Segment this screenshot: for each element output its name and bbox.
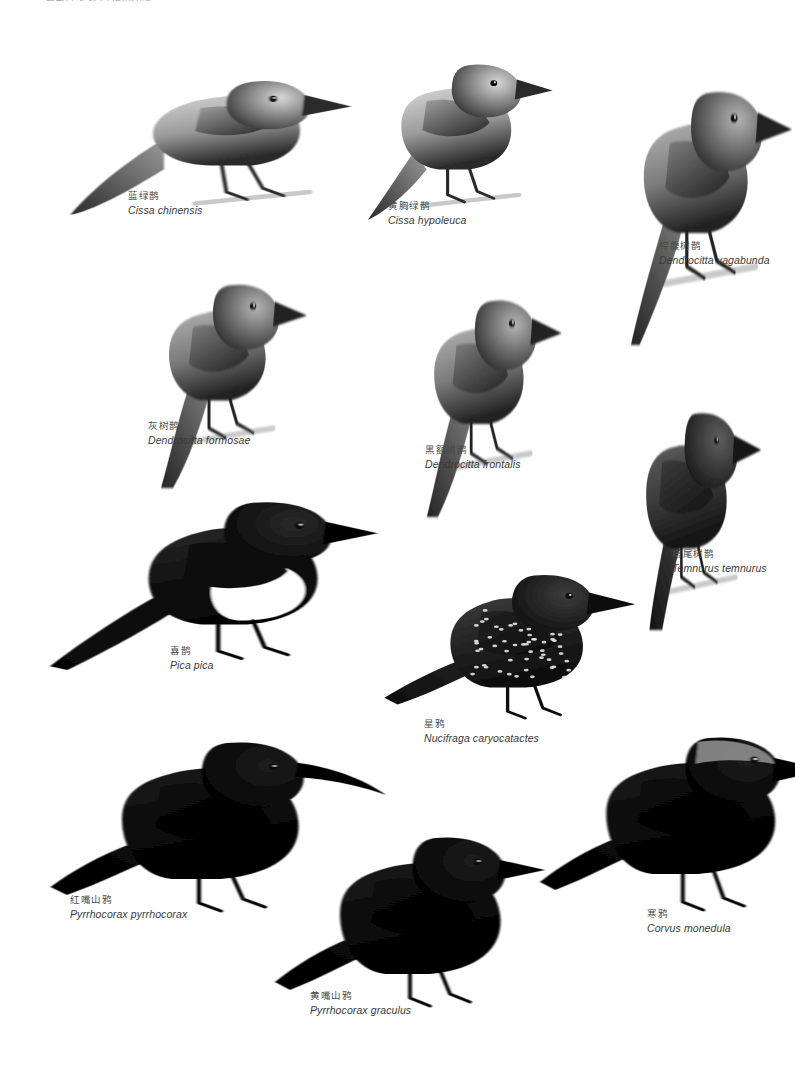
species-caption-dendrocitta-formosae: 灰树鹊Dendrocitta formosae (148, 420, 250, 447)
species-block-pica-pica (50, 480, 340, 670)
species-name-cn: 灰树鹊 (148, 420, 250, 433)
bird-illustration-icon (540, 710, 795, 910)
species-name-cn: 黄胸绿鹊 (388, 200, 467, 213)
species-name-cn: 塔尾树鹊 (672, 548, 767, 561)
bird-identification-plate: 雀形目 鸦科 CORVIDAE (0, 0, 795, 1065)
species-name-scientific: Dendrocitta frontalis (425, 458, 520, 472)
species-caption-cissa-hypoleuca: 黄胸绿鹊Cissa hypoleuca (388, 200, 467, 227)
bird-illustration-icon (105, 258, 305, 488)
bird-illustration-icon (270, 810, 520, 1010)
species-name-cn: 红嘴山鸦 (70, 894, 187, 907)
species-name-scientific: Pyrrhocorax graculus (310, 1004, 411, 1018)
species-block-nucifraga-caryocatactes (380, 555, 600, 725)
species-illustration-pica-pica (50, 480, 340, 670)
bird-illustration-icon (575, 65, 790, 345)
species-block-pyrrhocorax-graculus (270, 810, 520, 1010)
species-illustration-temnurus-temnurus (595, 390, 755, 630)
species-name-cn: 棕腹树鹊 (659, 240, 770, 253)
species-illustration-dendrocitta-frontalis (375, 272, 560, 517)
species-block-dendrocitta-formosae (105, 258, 305, 488)
species-caption-dendrocitta-frontalis: 黑额树鹊Dendrocitta frontalis (425, 444, 520, 471)
species-name-scientific: Dendrocitta vagabunda (659, 254, 770, 268)
species-name-cn: 喜鹊 (170, 645, 214, 658)
species-name-scientific: Corvus monedula (647, 922, 731, 936)
species-caption-corvus-monedula: 寒鸦Corvus monedula (647, 908, 731, 935)
species-name-cn: 寒鸦 (647, 908, 731, 921)
bird-illustration-icon (380, 555, 600, 725)
species-name-scientific: Nucifraga caryocatactes (424, 732, 539, 746)
bird-illustration-icon (330, 40, 540, 220)
species-caption-pica-pica: 喜鹊Pica pica (170, 645, 214, 672)
species-illustration-dendrocitta-vagabunda (575, 65, 790, 345)
species-name-scientific: Cissa chinensis (128, 204, 202, 218)
species-caption-nucifraga-caryocatactes: 星鸦Nucifraga caryocatactes (424, 718, 539, 745)
species-name-cn: 黑额树鹊 (425, 444, 520, 457)
species-illustration-nucifraga-caryocatactes (380, 555, 600, 725)
species-caption-pyrrhocorax-pyrrhocorax: 红嘴山鸦Pyrrhocorax pyrrhocorax (70, 894, 187, 921)
species-block-corvus-monedula (540, 710, 795, 910)
species-name-scientific: Dendrocitta formosae (148, 434, 250, 448)
species-caption-cissa-chinensis: 蓝绿鹊Cissa chinensis (128, 190, 202, 217)
species-name-scientific: Temnurus temnurus (672, 562, 767, 576)
species-name-scientific: Cissa hypoleuca (388, 214, 467, 228)
species-illustration-corvus-monedula (540, 710, 795, 910)
running-head: 雀形目 鸦科 CORVIDAE (46, 0, 152, 1)
species-name-scientific: Pyrrhocorax pyrrhocorax (70, 908, 187, 922)
species-block-cissa-hypoleuca (330, 40, 540, 220)
species-illustration-dendrocitta-formosae (105, 258, 305, 488)
species-name-cn: 黄嘴山鸦 (310, 990, 411, 1003)
species-block-dendrocitta-frontalis (375, 272, 560, 517)
species-name-scientific: Pica pica (170, 659, 214, 673)
species-illustration-pyrrhocorax-graculus (270, 810, 520, 1010)
species-illustration-cissa-hypoleuca (330, 40, 540, 220)
species-caption-pyrrhocorax-graculus: 黄嘴山鸦Pyrrhocorax graculus (310, 990, 411, 1017)
species-block-temnurus-temnurus (595, 390, 755, 630)
bird-illustration-icon (595, 390, 755, 630)
bird-illustration-icon (50, 480, 340, 670)
species-block-dendrocitta-vagabunda (575, 65, 790, 345)
species-name-cn: 星鸦 (424, 718, 539, 731)
bird-illustration-icon (375, 272, 560, 517)
species-name-cn: 蓝绿鹊 (128, 190, 202, 203)
species-caption-temnurus-temnurus: 塔尾树鹊Temnurus temnurus (672, 548, 767, 575)
species-caption-dendrocitta-vagabunda: 棕腹树鹊Dendrocitta vagabunda (659, 240, 770, 267)
